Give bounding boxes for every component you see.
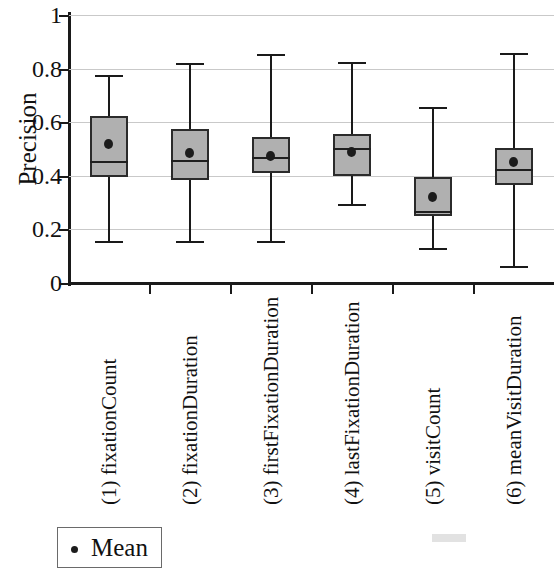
median-line bbox=[495, 169, 533, 171]
mean-marker-icon bbox=[71, 546, 78, 553]
x-tick-mark bbox=[392, 283, 394, 294]
plot-area bbox=[68, 15, 554, 283]
y-tick-label: 0 bbox=[16, 271, 62, 295]
box-plot bbox=[68, 15, 554, 283]
whisker-cap-upper bbox=[500, 53, 528, 55]
x-category-label: (2) fixationDuration bbox=[180, 335, 201, 505]
y-tick-label: 0.4 bbox=[16, 164, 62, 188]
x-category-label: (1) fixationCount bbox=[99, 359, 120, 505]
x-category-label: (3) firstFixationDuration bbox=[261, 297, 282, 505]
x-tick-mark bbox=[149, 283, 151, 294]
y-tick-label: 0.8 bbox=[16, 57, 62, 81]
box-plot-figure: Precision 00.20.40.60.81 (1) fixationCou… bbox=[0, 0, 554, 568]
y-tick-label: 1 bbox=[16, 3, 62, 27]
y-tick-label: 0.6 bbox=[16, 110, 62, 134]
x-category-label: (6) meanVisitDuration bbox=[504, 316, 525, 505]
x-category-label: (5) visitCount bbox=[423, 388, 444, 505]
x-tick-mark bbox=[311, 283, 313, 294]
x-tick-mark bbox=[230, 283, 232, 294]
x-category-label: (4) lastFixationDuration bbox=[342, 301, 363, 505]
y-tick-label: 0.2 bbox=[16, 217, 62, 241]
y-tick-mark bbox=[59, 283, 69, 285]
scan-artifact bbox=[432, 534, 466, 542]
whisker-cap-lower bbox=[500, 266, 528, 268]
legend-box: Mean bbox=[57, 527, 162, 568]
y-axis-tick-labels: 00.20.40.60.81 bbox=[14, 0, 62, 300]
legend-mean-label: Mean bbox=[91, 533, 148, 563]
x-tick-mark bbox=[473, 283, 475, 294]
